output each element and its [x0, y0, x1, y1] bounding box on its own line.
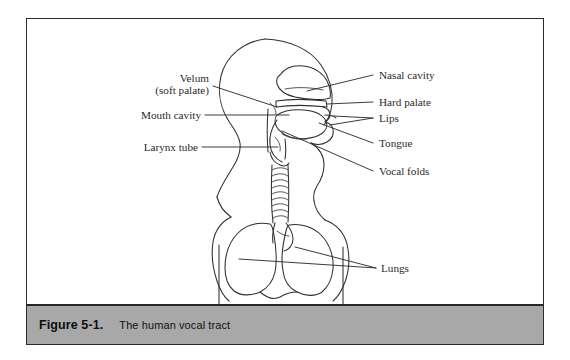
vocal-tract-diagram: Velum (soft palate) Mouth cavity Larynx …: [27, 19, 543, 305]
label-nasal-cavity: Nasal cavity: [379, 69, 435, 81]
leader-lips-upper: [333, 116, 373, 118]
diaphragm-curve: [260, 292, 297, 298]
epiglottis-detail: [275, 137, 280, 151]
tracheal-rings: [272, 168, 288, 218]
leader-nasal-cavity: [307, 75, 373, 91]
upper-lip-teeth: [323, 107, 330, 121]
lung-left-outline: [225, 223, 276, 294]
forehead-face-outline: [265, 39, 332, 125]
label-hard-palate: Hard palate: [379, 96, 431, 108]
neck-front-outline: [314, 201, 325, 220]
figure-frame: Velum (soft palate) Mouth cavity Larynx …: [26, 18, 544, 345]
label-tongue: Tongue: [379, 137, 412, 149]
leader-tongue: [319, 123, 373, 143]
leader-hard-palate: [327, 102, 373, 104]
leader-lungs-lower: [239, 259, 376, 268]
caption-title: The human vocal tract: [119, 319, 230, 331]
leader-velum: [213, 86, 277, 107]
torso-left-outline: [212, 217, 231, 301]
hard-palate-outline: [276, 100, 327, 108]
lungs-group: [225, 223, 333, 298]
figure-root: Velum (soft palate) Mouth cavity Larynx …: [0, 0, 570, 360]
nasal-cavity-outline: [277, 66, 331, 100]
trachea-right-wall: [288, 165, 289, 222]
bronchus-right: [284, 223, 293, 251]
neck-back-outline: [217, 197, 231, 217]
hard-palate-group: [270, 100, 327, 115]
leader-lines-group: [202, 75, 376, 268]
label-vocal-folds: Vocal folds: [379, 165, 429, 177]
figure-caption-bar: Figure 5-1. The human vocal tract: [27, 304, 543, 344]
nasal-cavity-group: [277, 66, 331, 100]
label-velum-line1: Velum: [180, 72, 210, 84]
label-larynx-tube: Larynx tube: [144, 141, 198, 153]
bronchus-detail: [277, 231, 289, 236]
label-velum-line2: (soft palate): [155, 84, 209, 97]
label-lungs: Lungs: [381, 262, 409, 274]
head-outline-group: [217, 39, 332, 197]
figure-drawing-area: Velum (soft palate) Mouth cavity Larynx …: [27, 19, 543, 305]
lung-right-outline: [282, 224, 333, 295]
cranium-outline: [217, 39, 265, 197]
leader-vocal-folds: [282, 131, 373, 171]
leader-lungs-upper: [295, 247, 376, 268]
jaw-chin-outline: [311, 143, 324, 201]
leader-lips-lower: [330, 118, 373, 125]
label-lips: Lips: [379, 112, 399, 124]
torso-group: [212, 217, 349, 304]
label-mouth-cavity: Mouth cavity: [141, 109, 201, 121]
pharynx-front-wall: [285, 139, 286, 159]
caption-number: Figure 5-1.: [39, 318, 103, 332]
